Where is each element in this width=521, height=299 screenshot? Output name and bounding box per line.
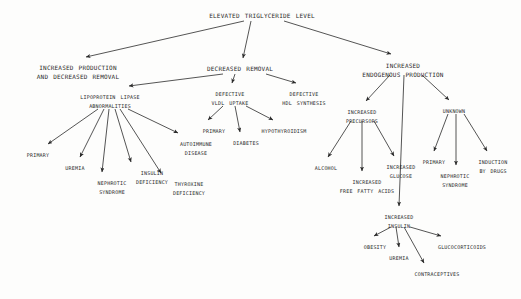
node-label: Primary [27,151,49,160]
edge-lpl_abn-to-thyroxine_def [120,109,161,173]
edge-unknown-to-induct_drugs [464,114,487,151]
node-label: Uremia [65,164,84,173]
node-autoimmune: Autoimmunedisease [180,140,212,157]
node-obesity: Obesity [364,243,386,252]
node-contracept: Contraceptives [415,270,460,279]
node-label: Decreased removal [207,65,273,74]
edge-incr_endog-to-incr_insulin [399,75,404,206]
node-incr_prod: Increased productionand decreased remova… [37,64,119,82]
node-label: syndrome [441,181,470,190]
node-label: Primary [203,127,225,136]
node-incr_glucose: Increasedglucose [387,163,416,180]
node-label: Contraceptives [415,270,460,279]
node-label: Glucocorticoids [438,243,486,252]
edge-def_vldl-to-primary_m [208,106,223,120]
node-label: Primary [423,158,445,167]
node-diabetes: Diabetes [233,139,259,148]
node-label: deficiency [173,189,205,198]
edge-lpl_abn-to-primary_l [48,109,98,144]
arrow-group [48,21,487,263]
node-primary_r: Primary [423,158,445,167]
edge-decr_removal-to-def_hdl [266,74,296,83]
edge-root-to-decr_removal [243,21,251,58]
node-incr_endog: Increasedendogenous production [362,62,443,80]
node-label: Alcohol [315,164,337,173]
edge-root-to-incr_endog [284,21,391,54]
edge-lpl_abn-to-insulin_def [115,109,131,162]
node-insulin_def: Insulindeficiency [136,169,168,186]
edge-incr_insulin-to-glucocort [410,227,441,236]
node-label: free fatty acids [340,187,395,196]
node-incr_prec: Increasedprecursors [346,108,378,125]
node-uremia_l: Uremia [65,164,84,173]
node-label: insulin [385,222,414,231]
diagram-canvas: Elevated triglyceride levelIncreased pro… [0,0,521,299]
node-alcohol: Alcohol [315,164,337,173]
node-label: Obesity [364,243,386,252]
node-label: Diabetes [233,139,259,148]
edge-def_vldl-to-diabetes [235,106,240,132]
node-label: abnormalities [80,102,139,111]
node-nephrotic_r: Nephroticsyndrome [441,172,470,189]
node-induct_drugs: Inductionby drugs [479,158,508,175]
edge-incr_prec-to-alcohol [328,121,351,157]
node-free_fatty: Increasedfree fatty acids [340,178,395,195]
edge-lpl_abn-to-autoimmune [128,109,178,133]
node-label: disease [180,149,212,158]
node-uremia_r: Uremia [389,254,408,263]
node-label: Uremia [389,254,408,263]
edge-incr_insulin-to-uremia_r [396,227,399,247]
node-primary_m: Primary [203,127,225,136]
node-lpl_abn: Lipoprotein lipaseabnormalities [80,93,139,110]
node-unknown: Unknown [443,107,465,116]
node-label: VLDL uptake [212,99,249,108]
node-label: precursors [346,117,378,126]
edge-unknown-to-primary_r [434,114,448,151]
node-label: syndrome [98,188,127,197]
node-glucocort: Glucocorticoids [438,243,486,252]
node-thyroxine_def: Thyroxinedeficiency [173,180,205,197]
node-incr_insulin: Increasedinsulin [385,213,414,230]
node-def_hdl: DefectiveHDL synthesis [282,90,325,107]
edge-incr_prec-to-incr_glucose [374,121,394,156]
node-decr_removal: Decreased removal [207,65,273,74]
edge-lpl_abn-to-nephrotic_l [102,109,109,172]
edge-lpl_abn-to-uremia_l [80,109,104,157]
node-label: glucose [387,172,416,181]
node-root: Elevated triglyceride level [209,11,315,20]
node-label: by drugs [479,167,508,176]
node-def_vldl: DefectiveVLDL uptake [212,90,249,107]
node-nephrotic_l: Nephroticsyndrome [98,179,127,196]
node-hypothyroid: Hypothyroidism [262,127,307,136]
edge-root-to-incr_prod [86,21,244,57]
node-label: HDL synthesis [282,99,325,108]
node-label: and decreased removal [37,73,119,82]
node-primary_l: Primary [27,151,49,160]
edge-layer [0,0,521,299]
node-label: Elevated triglyceride level [209,11,315,20]
edge-decr_removal-to-lpl_abn [129,74,223,86]
node-label: Hypothyroidism [262,127,307,136]
node-label: Unknown [443,107,465,116]
node-label: endogenous production [362,71,443,80]
node-label: deficiency [136,178,168,187]
edge-def_vldl-to-hypothyroid [246,106,273,120]
edge-decr_removal-to-def_vldl [232,74,235,83]
